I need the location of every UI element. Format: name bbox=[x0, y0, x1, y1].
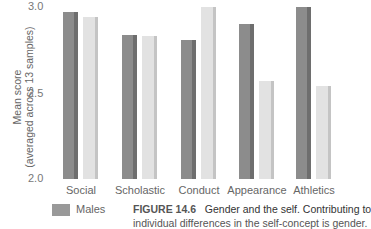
caption-line2: individual differences in the self-conce… bbox=[133, 217, 367, 229]
figure-number: FIGURE 14.6 bbox=[133, 203, 196, 215]
bar-females-conduct bbox=[201, 7, 216, 179]
plot-area bbox=[58, 7, 343, 179]
figure-caption: FIGURE 14.6 Gender and the self. Contrib… bbox=[133, 203, 371, 215]
bar-females-social bbox=[83, 17, 98, 179]
bar-males-athletics bbox=[296, 7, 311, 179]
bar-females-scholastic bbox=[142, 36, 157, 179]
bar-females-appearance bbox=[259, 81, 274, 179]
y-axis-label-line1: Mean score bbox=[11, 17, 23, 177]
bar-females-athletics bbox=[316, 86, 331, 179]
y-tick-3-0: 3.0 bbox=[28, 0, 43, 12]
bar-males-appearance bbox=[239, 24, 254, 179]
y-tick-2-5: 2.5 bbox=[28, 87, 43, 99]
caption-text: Gender and the self. Contributing to bbox=[205, 203, 371, 215]
bar-males-scholastic bbox=[122, 35, 137, 179]
x-category-athletics: Athletics bbox=[279, 184, 349, 196]
legend-swatch-males bbox=[52, 204, 70, 216]
bar-males-conduct bbox=[181, 40, 196, 179]
y-tick-2-0: 2.0 bbox=[28, 172, 43, 184]
bar-males-social bbox=[63, 12, 78, 179]
legend-label-males: Males bbox=[76, 203, 105, 215]
